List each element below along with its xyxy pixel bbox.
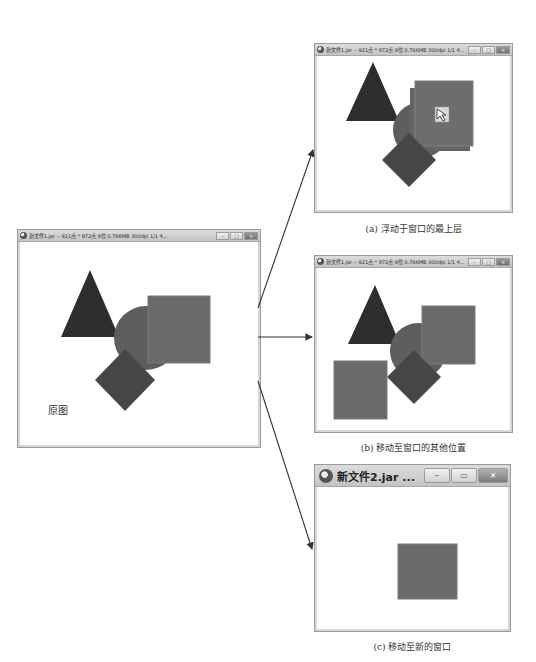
transition-arrows <box>0 0 536 662</box>
arrow-to-a <box>258 150 313 308</box>
arrow-to-c <box>258 381 312 549</box>
